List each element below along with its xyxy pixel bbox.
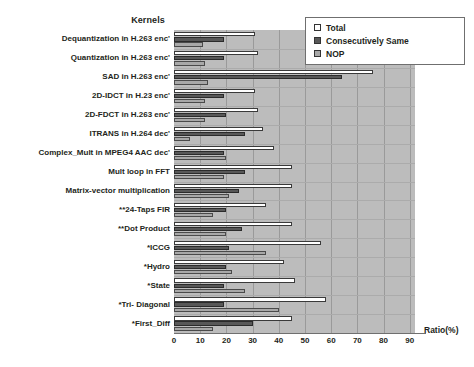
bar-cons	[174, 37, 224, 41]
bar-cons	[174, 75, 342, 79]
legend-item[interactable]: Total	[314, 21, 459, 34]
row-separator	[174, 106, 415, 107]
y-axis-tick-label: Matrix-vector multiplication	[0, 186, 170, 195]
x-axis-tick-label-0: 0	[163, 336, 185, 345]
bar-total	[174, 297, 326, 301]
bar-cons	[174, 227, 242, 231]
bar-cons	[174, 56, 224, 60]
bar-total	[174, 70, 373, 74]
bar-total	[174, 316, 292, 320]
x-axis-tick-label-40: 40	[268, 336, 290, 345]
bar-nop	[174, 327, 213, 331]
row-separator	[174, 68, 415, 69]
legend-swatch-cons-icon	[314, 37, 321, 44]
x-axis-title: Ratio(%)	[424, 325, 458, 335]
row-separator	[174, 314, 415, 315]
x-axis-tick-label-70: 70	[346, 336, 368, 345]
bar-total	[174, 184, 292, 188]
bar-cons	[174, 284, 224, 288]
row-separator	[174, 163, 415, 164]
y-axis-tick-label: *Hydro	[0, 262, 170, 271]
bar-cons	[174, 246, 229, 250]
x-axis-tick-label-80: 80	[373, 336, 395, 345]
bar-nop	[174, 308, 279, 312]
x-axis-tick-label-20: 20	[215, 336, 237, 345]
x-axis-tick-label-10: 10	[189, 336, 211, 345]
bar-nop	[174, 99, 205, 103]
y-axis-tick-labels: Dequantization in H.263 enc'Quantization…	[0, 30, 172, 333]
bar-cons	[174, 170, 245, 174]
bar-total	[174, 89, 255, 93]
bar-total	[174, 260, 284, 264]
y-axis-tick-label: SAD in H.263 enc'	[0, 72, 170, 81]
y-axis-tick-label: **Dot Product	[0, 224, 170, 233]
y-axis-tick-label: Quantization in H.263 enc'	[0, 53, 170, 62]
legend-swatch-total-icon	[314, 24, 321, 31]
chart-legend: TotalConsecutively SameNOP	[305, 17, 465, 65]
bar-chart-figure: Kernels Dequantization in H.263 enc'Quan…	[0, 0, 474, 367]
bar-cons	[174, 208, 226, 212]
bar-cons	[174, 189, 239, 193]
bar-nop	[174, 118, 205, 122]
y-axis-tick-label: *First_Diff	[0, 319, 170, 328]
bar-total	[174, 108, 258, 112]
row-separator	[174, 144, 415, 145]
x-axis-tick-label-90: 90	[399, 336, 421, 345]
bar-cons	[174, 321, 253, 325]
bar-nop	[174, 194, 229, 198]
bar-total	[174, 222, 292, 226]
plot-area	[174, 30, 415, 333]
row-separator	[174, 238, 415, 239]
bar-nop	[174, 289, 245, 293]
row-separator	[174, 276, 415, 277]
bar-cons	[174, 132, 245, 136]
bar-nop	[174, 270, 232, 274]
row-separator	[174, 257, 415, 258]
y-axis-tick-label: *Tri- Diagonal	[0, 300, 170, 309]
row-separator	[174, 200, 415, 201]
y-axis-tick-label: Complex_Mult in MPEG4 AAC dec'	[0, 148, 170, 157]
x-axis-tick-labels: 0102030405060708090	[0, 336, 474, 350]
bar-total	[174, 278, 295, 282]
bar-cons	[174, 151, 224, 155]
x-axis-tick-label-30: 30	[242, 336, 264, 345]
bar-total	[174, 203, 266, 207]
bar-nop	[174, 42, 203, 46]
plot-inner	[174, 30, 415, 333]
bar-nop	[174, 175, 224, 179]
bar-nop	[174, 232, 226, 236]
bar-nop	[174, 213, 213, 217]
y-axis-tick-label: *ICCG	[0, 243, 170, 252]
legend-label: Total	[326, 23, 346, 33]
y-axis-tick-label: Dequantization in H.263 enc'	[0, 34, 170, 43]
bar-total	[174, 146, 274, 150]
bar-nop	[174, 61, 205, 65]
x-axis-tick-label-50: 50	[294, 336, 316, 345]
x-axis-tick-label-60: 60	[320, 336, 342, 345]
legend-label: NOP	[326, 49, 344, 59]
row-separator	[174, 295, 415, 296]
y-axis-tick-label: **24-Taps FIR	[0, 205, 170, 214]
bar-cons	[174, 265, 226, 269]
legend-swatch-nop-icon	[314, 50, 321, 57]
x-axis-line	[174, 333, 426, 334]
legend-item[interactable]: Consecutively Same	[314, 34, 459, 47]
legend-item[interactable]: NOP	[314, 47, 459, 60]
y-axis-title: Kernels	[118, 15, 178, 25]
y-axis-tick-label: *State	[0, 281, 170, 290]
bar-nop	[174, 251, 266, 255]
y-axis-tick-label: 2D-FDCT in H.263 enc'	[0, 110, 170, 119]
bar-nop	[174, 156, 226, 160]
bar-total	[174, 241, 321, 245]
bar-total	[174, 51, 258, 55]
y-axis-tick-label: 2D-IDCT in H.23 enc'	[0, 91, 170, 100]
bar-total	[174, 165, 292, 169]
y-axis-tick-label: ITRANS in H.264 dec'	[0, 129, 170, 138]
row-separator	[174, 125, 415, 126]
bar-cons	[174, 113, 226, 117]
y-axis-tick-label: Mult loop in FFT	[0, 167, 170, 176]
row-separator	[174, 182, 415, 183]
row-separator	[174, 219, 415, 220]
bar-cons	[174, 302, 224, 306]
legend-label: Consecutively Same	[326, 36, 409, 46]
